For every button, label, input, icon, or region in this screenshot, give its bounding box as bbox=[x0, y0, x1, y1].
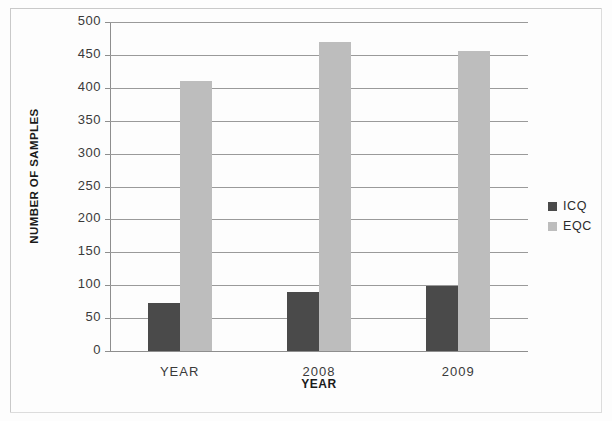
y-axis-tick-label: 200 bbox=[48, 210, 101, 225]
y-axis-tick-label: 400 bbox=[48, 79, 101, 94]
y-axis-tick-mark bbox=[105, 351, 110, 352]
bar-group bbox=[426, 22, 490, 351]
y-axis-tick-mark bbox=[105, 285, 110, 286]
scanned-page: NUMBER OF SAMPLES 0501001502002503003504… bbox=[0, 0, 612, 421]
y-axis-tick-mark bbox=[105, 55, 110, 56]
y-axis-tick-label: 250 bbox=[48, 178, 101, 193]
bar-eqc-2008 bbox=[319, 42, 351, 351]
y-axis-tick-label: 100 bbox=[48, 276, 101, 291]
bar-icq-2008 bbox=[287, 292, 319, 351]
legend-label: ICQ bbox=[563, 199, 587, 213]
y-axis-tick-mark bbox=[105, 88, 110, 89]
y-axis-tick-label: 50 bbox=[48, 309, 101, 324]
legend-swatch-icon bbox=[548, 222, 557, 231]
y-axis-tick-mark bbox=[105, 252, 110, 253]
chart-legend: ICQEQC bbox=[548, 196, 592, 236]
x-axis-category-label: YEAR bbox=[120, 364, 240, 379]
x-axis-category-label: 2009 bbox=[398, 364, 518, 379]
bar-eqc-YEAR bbox=[180, 81, 212, 351]
y-axis-tick-labels: 050100150200250300350400450500 bbox=[48, 0, 101, 421]
bar-eqc-2009 bbox=[458, 51, 490, 351]
y-axis-tick-mark bbox=[105, 154, 110, 155]
bar-group bbox=[287, 22, 351, 351]
y-axis-tick-label: 500 bbox=[48, 13, 101, 28]
y-axis-tick-mark bbox=[105, 219, 110, 220]
bar-icq-YEAR bbox=[148, 303, 180, 351]
y-axis-tick-label: 350 bbox=[48, 112, 101, 127]
y-axis-tick-mark bbox=[105, 22, 110, 23]
legend-item-icq[interactable]: ICQ bbox=[548, 196, 592, 216]
legend-item-eqc[interactable]: EQC bbox=[548, 216, 592, 236]
bar-group bbox=[148, 22, 212, 351]
x-axis-title: YEAR bbox=[259, 377, 379, 391]
y-axis-tick-mark bbox=[105, 318, 110, 319]
y-axis-tick-mark bbox=[105, 121, 110, 122]
y-axis-tick-mark bbox=[105, 187, 110, 188]
y-axis-tick-label: 450 bbox=[48, 46, 101, 61]
y-axis-tick-label: 0 bbox=[48, 342, 101, 357]
legend-swatch-icon bbox=[548, 202, 557, 211]
y-axis-title: NUMBER OF SAMPLES bbox=[28, 96, 40, 256]
x-axis-line bbox=[110, 351, 528, 352]
legend-label: EQC bbox=[563, 219, 592, 233]
y-axis-tick-label: 150 bbox=[48, 243, 101, 258]
bar-icq-2009 bbox=[426, 286, 458, 351]
bar-chart: NUMBER OF SAMPLES 0501001502002503003504… bbox=[0, 0, 612, 421]
y-axis-tick-label: 300 bbox=[48, 145, 101, 160]
